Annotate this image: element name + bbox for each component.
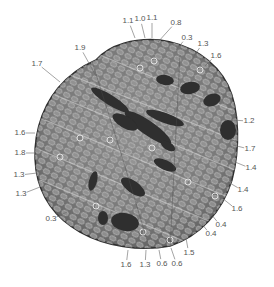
annotation-label: 0.4 (205, 230, 216, 238)
leader-line (27, 187, 40, 192)
annotation-label: 1.3 (15, 190, 26, 198)
leader-line (127, 250, 128, 260)
leader-line (42, 67, 60, 82)
annotation-label: 1.5 (183, 249, 194, 257)
leader-line (25, 173, 37, 174)
leader-line (145, 250, 146, 260)
annotation-label: 0.6 (171, 260, 182, 268)
annotation-label: 0.3 (181, 34, 192, 42)
annotation-label: 0.4 (215, 221, 226, 229)
annotation-label: 0.8 (170, 19, 181, 27)
annotation-label: 1.6 (210, 52, 221, 60)
leader-line (171, 248, 175, 259)
annotation-label: 1.3 (13, 171, 24, 179)
annotation-label: 1.4 (245, 164, 256, 172)
annotation-label: 1.6 (120, 261, 131, 269)
leader-line (159, 250, 161, 259)
annotation-label: 1.7 (31, 60, 42, 68)
annotation-label: 1.1 (146, 14, 157, 22)
annotation-label: 1.0 (134, 15, 145, 23)
annotation-label: 1.4 (237, 186, 248, 194)
annotation-label: 1.8 (14, 149, 25, 157)
annotation-label: 1.7 (244, 145, 255, 153)
annotation-label: 1.9 (74, 44, 85, 52)
specimen-cross-section (0, 0, 274, 287)
leader-line (142, 24, 145, 38)
leader-line (158, 27, 172, 42)
micrograph-figure: 1.91.71.11.01.10.80.31.31.61.21.71.41.41… (0, 0, 274, 287)
annotation-label: 1.3 (197, 40, 208, 48)
annotation-label: 0.6 (156, 260, 167, 268)
annotation-label: 0.3 (45, 215, 56, 223)
annotation-label: 1.3 (139, 261, 150, 269)
leader-line (186, 238, 188, 248)
leader-line (130, 26, 135, 38)
annotation-label: 1.1 (122, 17, 133, 25)
annotation-label: 1.2 (243, 117, 254, 125)
annotation-label: 1.6 (231, 205, 242, 213)
annotation-label: 1.6 (14, 129, 25, 137)
leader-line (235, 162, 245, 166)
